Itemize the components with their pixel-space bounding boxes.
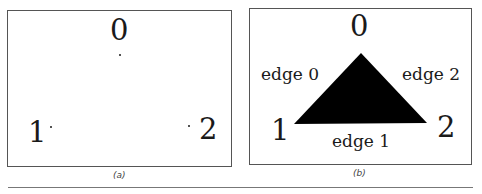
edge-1-label: edge 1 xyxy=(332,133,390,150)
vertex-2-label-b: 2 xyxy=(437,113,455,142)
edge-0-label: edge 0 xyxy=(261,66,319,83)
vertex-0-label-b: 0 xyxy=(350,12,368,41)
caption-b: (b) xyxy=(353,168,366,178)
edge-2-label: edge 2 xyxy=(402,66,460,83)
vertex-1-label-b: 1 xyxy=(271,116,289,145)
filled-triangle xyxy=(0,0,482,194)
bottom-divider xyxy=(8,187,473,188)
